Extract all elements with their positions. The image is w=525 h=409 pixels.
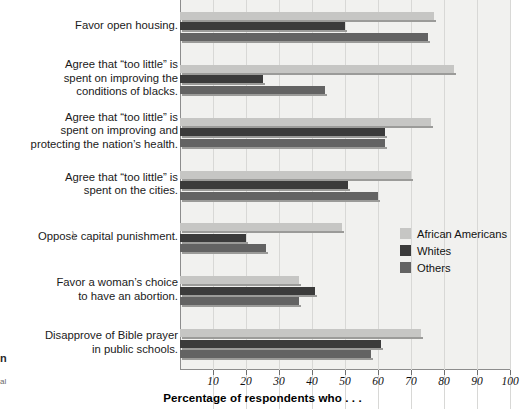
bar-african-americans-group-7 [180, 329, 421, 337]
legend: African AmericansWhitesOthers [400, 226, 507, 277]
gridline-90 [477, 0, 478, 409]
category-label-6: Favor a woman’s choice to have an aborti… [56, 276, 178, 303]
legend-label-others: Others [417, 262, 451, 274]
bar-whites-group-1 [180, 22, 345, 30]
gridline-100 [510, 0, 511, 409]
bar-whites-group-5 [180, 234, 246, 242]
bar-african-americans-group-5 [180, 223, 342, 231]
bar-whites-group-6 [180, 287, 315, 295]
bar-shadow [182, 358, 373, 360]
bar-others-group-2 [180, 86, 325, 94]
legend-label-whites: Whites [417, 245, 451, 257]
legend-label-african: African Americans [417, 228, 507, 240]
legend-item-african: African Americans [400, 226, 507, 241]
bar-chart: Favor open housing.Agree that “too littl… [0, 0, 525, 409]
bar-african-americans-group-6 [180, 276, 299, 284]
margin-text-small: al [0, 377, 6, 386]
tick-label-90: 90 [471, 375, 483, 387]
bar-shadow [182, 94, 327, 96]
bar-whites-group-2 [180, 75, 263, 83]
margin-text-slash: \ [72, 228, 76, 243]
category-label-5: Oppose capital punishment. [38, 230, 178, 243]
category-label-4: Agree that “too little” is spent on the … [65, 171, 178, 198]
tick-label-50: 50 [339, 375, 351, 387]
category-label-3: Agree that “too little” is spent on impr… [31, 111, 178, 151]
tick-label-100: 100 [501, 375, 518, 387]
bar-shadow [182, 147, 387, 149]
bar-shadow [182, 41, 430, 43]
bar-african-americans-group-2 [180, 65, 454, 73]
category-label-2: Agree that “too little” is spent on impr… [64, 58, 178, 98]
gridline-80 [444, 0, 445, 409]
bar-whites-group-4 [180, 181, 348, 189]
bar-others-group-3 [180, 139, 385, 147]
bar-african-americans-group-4 [180, 171, 411, 179]
category-label-1: Favor open housing. [75, 19, 178, 32]
legend-swatch-others [400, 262, 411, 273]
bar-whites-group-7 [180, 340, 381, 348]
tick-label-10: 10 [207, 375, 219, 387]
tick-label-40: 40 [306, 375, 318, 387]
legend-item-others: Others [400, 260, 507, 275]
bar-shadow [182, 252, 268, 254]
legend-swatch-whites [400, 245, 411, 256]
tick-label-80: 80 [438, 375, 450, 387]
category-label-7: Disapprove of Bible prayer in public sch… [45, 329, 178, 356]
margin-text-bold: n [0, 352, 7, 364]
bar-shadow [182, 305, 301, 307]
bar-others-group-4 [180, 192, 378, 200]
x-axis-title: Percentage of respondents who . . . [0, 391, 525, 404]
bar-others-group-6 [180, 297, 299, 305]
bar-african-americans-group-1 [180, 12, 434, 20]
tick-label-30: 30 [273, 375, 285, 387]
bar-others-group-5 [180, 244, 266, 252]
bar-shadow [182, 200, 380, 202]
bar-others-group-7 [180, 350, 371, 358]
legend-item-whites: Whites [400, 243, 507, 258]
legend-swatch-african [400, 228, 411, 239]
tick-label-60: 60 [372, 375, 384, 387]
tick-label-70: 70 [405, 375, 417, 387]
gridline-70 [411, 0, 412, 409]
bar-whites-group-3 [180, 128, 385, 136]
tick-label-20: 20 [240, 375, 252, 387]
bar-others-group-1 [180, 33, 428, 41]
bar-african-americans-group-3 [180, 118, 431, 126]
